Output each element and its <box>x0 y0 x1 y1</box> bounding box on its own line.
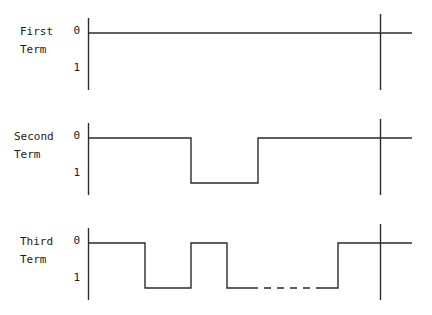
y-tick-label-1-first-term: 1 <box>66 62 80 74</box>
panel-label-line2-second-term: Term <box>14 149 78 161</box>
waveform-panel-second-term: Second Term 0 1 <box>0 105 432 210</box>
panel-label-line2-first-term: Term <box>20 44 78 56</box>
waveform-panel-first-term: First Term 0 1 <box>0 0 432 105</box>
waveform-trace-second-term <box>88 138 412 183</box>
y-tick-label-0-first-term: 0 <box>66 25 80 37</box>
waveform-trace-third-term-solid-left <box>88 243 251 288</box>
waveform-trace-third-term-solid-right <box>320 243 412 288</box>
panel-label-line2-third-term: Term <box>20 254 78 266</box>
y-tick-label-0-second-term: 0 <box>66 130 80 142</box>
y-tick-label-0-third-term: 0 <box>66 235 80 247</box>
y-tick-label-1-third-term: 1 <box>66 272 80 284</box>
timing-diagram-figure: First Term 0 1 Second Term 0 1 Third Ter… <box>0 0 432 315</box>
y-tick-label-1-second-term: 1 <box>66 167 80 179</box>
waveform-panel-third-term: Third Term 0 1 <box>0 210 432 315</box>
